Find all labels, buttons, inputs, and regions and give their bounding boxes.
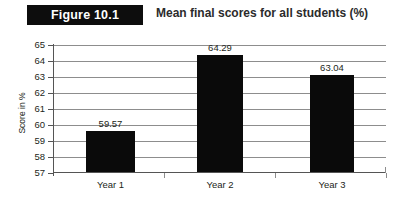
y-axis-tick xyxy=(48,61,53,62)
bar xyxy=(197,55,243,172)
bar xyxy=(310,75,354,172)
y-axis-tick xyxy=(48,45,53,46)
x-axis-category-label: Year 2 xyxy=(172,180,268,190)
y-axis-tick-label: 64 xyxy=(15,56,45,66)
figure-header: Figure 10.1 Mean final scores for all st… xyxy=(0,0,408,30)
y-axis-tick xyxy=(48,157,53,158)
plot-area: 59.5764.2963.04 xyxy=(53,45,386,173)
y-axis-tick xyxy=(48,109,53,110)
bar-value-label: 63.04 xyxy=(290,63,374,73)
bar-value-label: 59.57 xyxy=(66,119,155,129)
bar-value-label: 64.29 xyxy=(177,43,263,53)
y-axis-tick-label: 57 xyxy=(15,168,45,178)
y-axis-tick-label: 58 xyxy=(15,152,45,162)
x-axis-separator-tick xyxy=(164,173,165,178)
y-axis-tick xyxy=(48,93,53,94)
figure-title: Mean final scores for all students (%) xyxy=(156,6,368,20)
figure-number-badge: Figure 10.1 xyxy=(27,5,143,25)
x-axis-category-label: Year 1 xyxy=(61,180,160,190)
x-axis-separator-tick xyxy=(275,173,276,178)
bar xyxy=(86,131,135,172)
bar-chart: 59.5764.2963.04 656463626160595857 Score… xyxy=(0,30,408,220)
y-axis-tick xyxy=(48,125,53,126)
x-axis-separator-tick xyxy=(386,173,387,178)
y-axis-tick xyxy=(48,141,53,142)
x-axis-category-label: Year 3 xyxy=(285,180,379,190)
y-axis-title: Score in % xyxy=(17,78,27,148)
y-axis-line xyxy=(53,44,54,176)
x-axis-line xyxy=(53,172,386,173)
y-axis-tick-label: 65 xyxy=(15,40,45,50)
figure-number-label: Figure 10.1 xyxy=(51,8,119,22)
y-axis-tick xyxy=(48,77,53,78)
y-axis-tick xyxy=(48,173,53,174)
